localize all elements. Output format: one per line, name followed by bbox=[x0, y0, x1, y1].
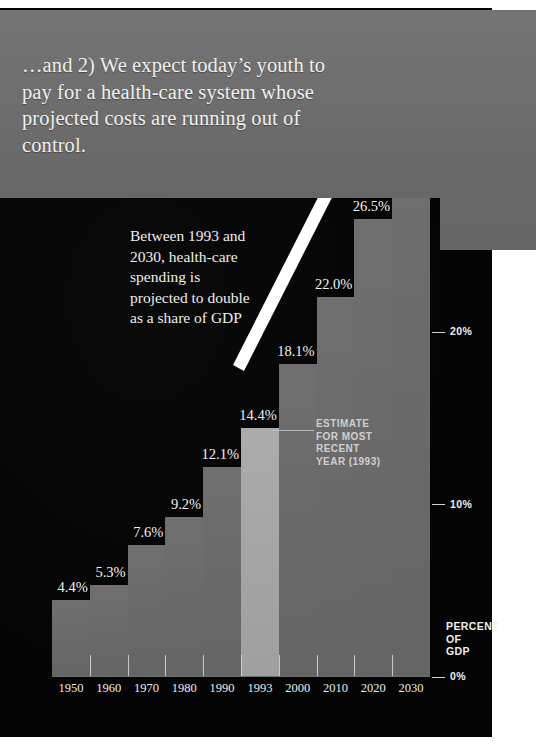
x-tick-1990 bbox=[203, 655, 204, 676]
bar-2000 bbox=[279, 364, 317, 676]
bar-value-label-1970: 7.6% bbox=[98, 524, 164, 541]
x-tick-1970 bbox=[128, 655, 129, 676]
y-tick-dash-icon bbox=[432, 504, 445, 505]
bar-1980 bbox=[165, 517, 203, 676]
chart-caption: Between 1993 and 2030, health-care spend… bbox=[130, 226, 260, 329]
estimate-callout: ESTIMATE FOR MOST RECENT YEAR (1993) bbox=[316, 418, 380, 468]
bar-value-label-1980: 9.2% bbox=[135, 496, 201, 513]
bar-value-label-1950: 4.4% bbox=[22, 579, 88, 596]
bar-value-label-2000: 18.1% bbox=[249, 343, 315, 360]
bar-value-label-1993: 14.4% bbox=[211, 407, 277, 424]
y-axis-tick-0%: 0% bbox=[432, 670, 466, 682]
bar-1950 bbox=[52, 600, 90, 676]
poster-page: 1950196019701980199019932000201020202030… bbox=[0, 0, 536, 747]
bar-1970 bbox=[128, 545, 166, 676]
y-axis-tick-10%: 10% bbox=[432, 498, 472, 510]
estimate-line-1: ESTIMATE bbox=[316, 418, 380, 431]
y-axis-title-line1: PERCENT bbox=[446, 620, 499, 633]
bar-value-label-2020: 26.5% bbox=[324, 198, 390, 215]
x-axis-line bbox=[52, 676, 430, 677]
x-tick-1980 bbox=[165, 655, 166, 676]
y-tick-text: 0% bbox=[450, 670, 466, 682]
y-axis-tick-20%: 20% bbox=[432, 325, 472, 337]
y-tick-text: 20% bbox=[450, 325, 472, 337]
y-tick-text: 10% bbox=[450, 498, 472, 510]
x-axis-label-2030: 2030 bbox=[388, 681, 434, 696]
bar-1960 bbox=[90, 585, 128, 676]
estimate-line-3: RECENT bbox=[316, 443, 380, 456]
y-tick-dash-icon bbox=[432, 332, 445, 333]
x-tick-1960 bbox=[90, 655, 91, 676]
y-tick-dash-icon bbox=[432, 677, 445, 678]
bar-2030 bbox=[392, 124, 430, 676]
y-axis-title: PERCENT OF GDP bbox=[446, 620, 499, 658]
x-tick-2030 bbox=[392, 655, 393, 676]
estimate-leader-line bbox=[272, 430, 314, 431]
x-tick-2010 bbox=[317, 655, 318, 676]
bar-value-label-2010: 22.0% bbox=[287, 276, 353, 293]
y-axis-title-line2: OF bbox=[446, 633, 499, 646]
x-tick-2000 bbox=[279, 655, 280, 676]
x-tick-2020 bbox=[354, 655, 355, 676]
headline-text: …and 2) We expect today’s youth to pay f… bbox=[22, 52, 352, 158]
bar-value-label-1990: 12.1% bbox=[173, 446, 239, 463]
bar-1990 bbox=[203, 467, 241, 676]
y-axis-title-line3: GDP bbox=[446, 645, 499, 658]
bar-2010 bbox=[317, 297, 355, 677]
bar-1993 bbox=[241, 428, 279, 676]
estimate-line-2: FOR MOST bbox=[316, 431, 380, 444]
estimate-line-4: YEAR (1993) bbox=[316, 456, 380, 469]
x-tick-1993 bbox=[241, 655, 242, 676]
bar-value-label-1960: 5.3% bbox=[60, 564, 126, 581]
